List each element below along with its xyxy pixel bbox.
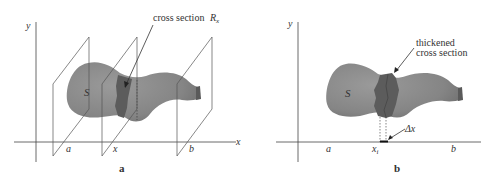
tick-label-b: b bbox=[189, 143, 194, 154]
caption-b: b bbox=[394, 162, 400, 174]
tick-label-xi: xi bbox=[371, 143, 378, 156]
delta-x-arrowhead bbox=[388, 135, 393, 140]
figure-b: y S Δx thickened cross section a xi b b bbox=[276, 18, 481, 174]
tick-label-b-b: b bbox=[451, 143, 456, 154]
x-axis-label-a: x bbox=[235, 136, 241, 147]
end-cap-a bbox=[196, 86, 201, 100]
y-axis-label-b: y bbox=[287, 18, 293, 29]
y-axis-label-a: y bbox=[25, 20, 31, 31]
solid-label-b: S bbox=[345, 87, 351, 99]
tick-label-a-b: a bbox=[326, 143, 331, 154]
caption-a: a bbox=[119, 162, 125, 174]
end-cap-b bbox=[458, 87, 463, 101]
tick-label-a: a bbox=[66, 143, 71, 154]
figure-a: y x S cross section Rx a x bbox=[14, 12, 241, 174]
annotation-label-b-line2: cross section bbox=[416, 47, 467, 58]
tick-label-x: x bbox=[112, 143, 118, 154]
delta-x-label: Δx bbox=[404, 123, 416, 134]
diagram-canvas: y x S cross section Rx a x bbox=[0, 0, 481, 188]
annotation-arrow-b bbox=[396, 48, 414, 71]
annotation-label-a: cross section Rx bbox=[153, 12, 220, 25]
